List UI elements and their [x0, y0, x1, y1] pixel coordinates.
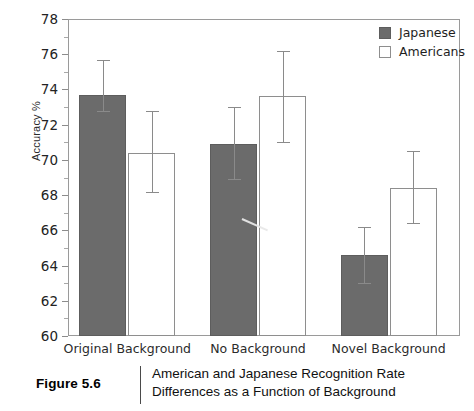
- legend-item-americans: Americans: [379, 43, 474, 60]
- legend-label-americans: Americans: [399, 44, 465, 59]
- error-bar-line: [103, 60, 104, 111]
- y-tick-label: 66: [20, 222, 58, 238]
- y-tick-mark: [62, 195, 68, 196]
- y-tick-minor-mark: [64, 107, 68, 108]
- caption-text: American and Japanese Recognition Rate D…: [152, 365, 470, 401]
- error-bar-cap-lower: [407, 223, 420, 224]
- y-tick-label: 70: [20, 152, 58, 168]
- error-bar-line: [152, 111, 153, 192]
- error-bar-cap-lower: [97, 111, 110, 112]
- error-bar-line: [413, 151, 414, 223]
- error-bar-cap-lower: [358, 283, 371, 284]
- y-tick-mark: [62, 336, 68, 337]
- figure-container: Accuracy % 60626466687072747678 Original…: [0, 0, 474, 411]
- y-tick-label: 72: [20, 117, 58, 133]
- figure-caption: Figure 5.6 American and Japanese Recogni…: [0, 364, 474, 411]
- error-bar-cap-upper: [97, 60, 110, 61]
- y-tick-minor-mark: [64, 37, 68, 38]
- y-tick-label: 76: [20, 46, 58, 62]
- bar-chart: Accuracy % 60626466687072747678 Original…: [0, 0, 474, 350]
- legend-swatch-japanese: [379, 27, 391, 39]
- y-tick-minor-mark: [64, 283, 68, 284]
- error-bar-cap-lower: [277, 142, 290, 143]
- y-tick-label: 74: [20, 81, 58, 97]
- y-tick-mark: [62, 160, 68, 161]
- legend-swatch-americans: [379, 46, 391, 58]
- y-tick-mark: [62, 230, 68, 231]
- error-bar-cap-upper: [146, 111, 159, 112]
- error-bar-line: [364, 227, 365, 283]
- y-tick-label: 64: [20, 258, 58, 274]
- y-tick-mark: [62, 125, 68, 126]
- error-bar-cap-upper: [277, 51, 290, 52]
- y-tick-mark: [62, 19, 68, 20]
- error-bar-line: [283, 51, 284, 143]
- caption-divider: [140, 366, 141, 404]
- error-bar-cap-upper: [358, 227, 371, 228]
- legend-label-japanese: Japanese: [399, 25, 456, 40]
- y-tick-label: 78: [20, 11, 58, 27]
- y-tick-mark: [62, 54, 68, 55]
- x-category-label: Novel Background: [309, 341, 469, 356]
- y-tick-minor-mark: [64, 178, 68, 179]
- y-tick-minor-mark: [64, 248, 68, 249]
- legend-item-japanese: Japanese: [379, 24, 474, 41]
- y-tick-mark: [62, 266, 68, 267]
- legend: Japanese Americans: [379, 24, 474, 62]
- figure-number: Figure 5.6: [36, 376, 101, 391]
- y-tick-label: 68: [20, 187, 58, 203]
- error-bar-line: [234, 107, 235, 179]
- y-tick-minor-mark: [64, 142, 68, 143]
- error-bar-cap-upper: [407, 151, 420, 152]
- error-bar-cap-upper: [228, 107, 241, 108]
- y-tick-minor-mark: [64, 318, 68, 319]
- y-tick-mark: [62, 301, 68, 302]
- error-bar-cap-lower: [146, 192, 159, 193]
- error-bar-cap-lower: [228, 179, 241, 180]
- bar-japanese-original-background: [79, 95, 126, 336]
- y-tick-minor-mark: [64, 72, 68, 73]
- y-tick-label: 62: [20, 293, 58, 309]
- y-tick-mark: [62, 89, 68, 90]
- y-tick-minor-mark: [64, 213, 68, 214]
